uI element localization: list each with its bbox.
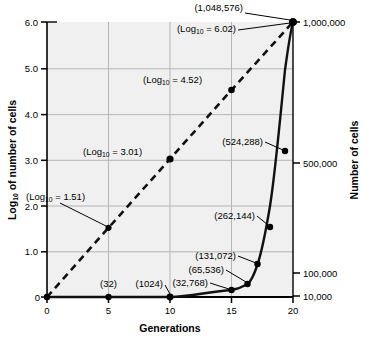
right-tick-label-100000: 100,000 bbox=[303, 268, 337, 279]
annotation-log602: (Log10 = 6.02) bbox=[177, 23, 236, 35]
x-tick-label-5: 5 bbox=[106, 305, 111, 316]
annotation-log602-pre: (Log bbox=[177, 23, 196, 34]
annotation-log452-post: = 4.52) bbox=[170, 74, 202, 85]
annotation-log301: (Log10 = 3.01) bbox=[83, 146, 142, 158]
y-tick-label-5: 5.0 bbox=[25, 63, 38, 74]
y-tick-label-1: 1.0 bbox=[25, 246, 38, 257]
y-tick-label-2: 2.0 bbox=[25, 201, 38, 212]
annotation-524288: (524,288) bbox=[222, 136, 263, 147]
x-tick-label-10: 10 bbox=[165, 305, 176, 316]
chart-figure: 6.0 5.0 4.0 3.0 2.0 1.0 0 0 5 10 15 20 1… bbox=[0, 0, 369, 342]
x-tick-label-0: 0 bbox=[44, 305, 49, 316]
annotation-log602-post: = 6.02) bbox=[204, 23, 236, 34]
annotation-131072: (131,072) bbox=[195, 250, 236, 261]
y-tick-label-3: 3.0 bbox=[25, 155, 38, 166]
y-axis-title-right: Number of cells bbox=[348, 120, 360, 199]
y-tick-label-4: 4.0 bbox=[25, 109, 38, 120]
leader-1048576 bbox=[245, 13, 290, 20]
y-tick-label-0: 0 bbox=[35, 292, 40, 303]
y-axis-title-right-text: Number of cells bbox=[348, 120, 360, 199]
svg-text:Log10 of number of cells: Log10 of number of cells bbox=[6, 100, 19, 220]
annotation-log301-pre: (Log bbox=[83, 146, 102, 157]
annotation-log301-post: = 3.01) bbox=[110, 146, 142, 157]
annotation-262144: (262,144) bbox=[214, 210, 255, 221]
annotation-32768: (32,768) bbox=[173, 277, 208, 288]
annotation-log151: (Log10 = 1.51) bbox=[26, 191, 85, 203]
right-tick-label-10000: 10,000 bbox=[303, 291, 332, 302]
annotation-1024: (1024) bbox=[136, 278, 163, 289]
y-axis-title-pre: Log bbox=[6, 201, 18, 220]
annotation-65536: (65,536) bbox=[189, 264, 224, 275]
annotation-log151-post: = 1.51) bbox=[53, 191, 85, 202]
y-axis-title-left: Log10 of number of cells bbox=[6, 100, 19, 220]
x-axis-title: Generations bbox=[139, 322, 200, 334]
annotation-log151-pre: (Log bbox=[26, 191, 45, 202]
annotation-log452: (Log10 = 4.52) bbox=[143, 74, 202, 86]
annotation-32: (32) bbox=[100, 278, 117, 289]
y-axis-right-ticks bbox=[293, 22, 300, 296]
y-axis-ticks bbox=[41, 22, 47, 297]
y-tick-label-6: 6.0 bbox=[25, 17, 38, 28]
right-tick-label-500000: 500,000 bbox=[303, 158, 337, 169]
right-tick-label-1000000: 1,000,000 bbox=[303, 17, 345, 28]
growth-curve-chart: 6.0 5.0 4.0 3.0 2.0 1.0 0 0 5 10 15 20 1… bbox=[0, 0, 369, 342]
annotation-1048576: (1,048,576) bbox=[194, 2, 243, 13]
x-tick-label-15: 15 bbox=[226, 305, 237, 316]
y-axis-title-post: of number of cells bbox=[6, 100, 18, 194]
annotation-log452-pre: (Log bbox=[143, 74, 162, 85]
x-tick-label-20: 20 bbox=[288, 305, 299, 316]
